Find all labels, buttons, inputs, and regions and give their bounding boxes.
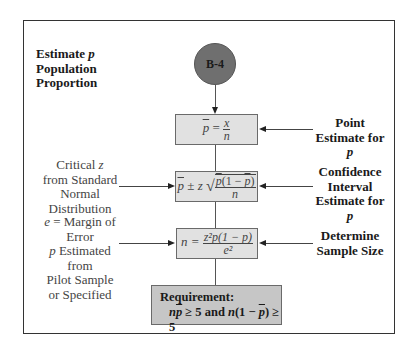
requirement-box: Requirement: np ≥ 5 and n(1 − p) ≥ 5 (151, 285, 282, 325)
diagram-title: Estimate p Population Proportion (36, 47, 96, 91)
arrow-right-icon (168, 240, 175, 246)
confidence-interval-label: Confidence Interval Estimate for p (312, 165, 388, 223)
connector-line (215, 145, 216, 171)
sample-size-box: n = z²p(1 − p)e² (176, 228, 258, 259)
start-node-label: B-4 (206, 57, 224, 72)
point-estimate-formula: p = xn (203, 117, 231, 142)
connector-line (119, 243, 169, 244)
sample-size-label: Determine Sample Size (312, 229, 388, 258)
connector-line (265, 129, 313, 130)
connector-line (215, 202, 216, 228)
requirement-heading: Requirement: (160, 290, 281, 305)
connector-line (215, 85, 216, 107)
connector-line (119, 186, 169, 187)
arrow-right-icon (168, 183, 175, 189)
point-estimate-label: Point Estimate for p (312, 116, 388, 160)
connector-line (265, 186, 313, 187)
arrow-left-icon (259, 240, 266, 246)
confidence-interval-formula: p ± z √p(1 − p)n (178, 174, 256, 200)
sample-size-formula: n = z²p(1 − p)e² (181, 231, 253, 256)
margin-of-error-label: e = Margin of Error p Estimated from Pil… (36, 215, 124, 302)
confidence-interval-box: p ± z √p(1 − p)n (175, 171, 258, 202)
point-estimate-box: p = xn (175, 114, 258, 145)
connector-line (215, 259, 216, 285)
start-node-b4: B-4 (194, 43, 236, 85)
arrow-left-icon (259, 183, 266, 189)
connector-line (265, 243, 313, 244)
requirement-condition: np ≥ 5 and n(1 − p) ≥ 5 (160, 305, 281, 335)
critical-z-label: Critical z from Standard Normal Distribu… (40, 158, 120, 216)
arrow-left-icon (259, 126, 266, 132)
arrow-down-icon (212, 107, 218, 114)
